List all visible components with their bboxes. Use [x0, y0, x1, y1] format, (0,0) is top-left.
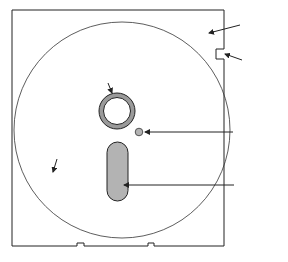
- hub-opening: [104, 98, 131, 125]
- disk-arrow: [53, 159, 57, 172]
- stress-relief-left-arrow: [83, 219, 94, 242]
- index-hole: [135, 128, 143, 136]
- write-protect-arrow: [225, 54, 242, 60]
- hub-arrow: [108, 83, 112, 93]
- floppy-disk-diagram: [0, 0, 288, 262]
- read-write-opening: [107, 142, 128, 201]
- disk-circle: [14, 22, 230, 238]
